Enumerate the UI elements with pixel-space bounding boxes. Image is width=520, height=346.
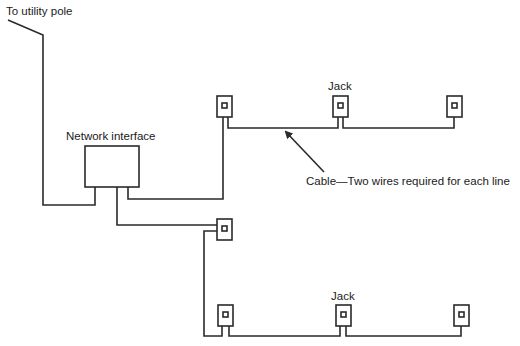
jack-bottom-2 [336,305,351,326]
utility-pole-label: To utility pole [6,6,72,18]
jack-top-2 [333,96,348,117]
cable-label: Cable—Two wires required for each line [306,176,510,188]
network-interface-box [85,146,139,187]
jack-bottom-3 [454,305,469,326]
jack-top-3 [447,96,462,117]
cable-to-middle-jack [117,187,217,225]
wiring-diagram [0,0,520,346]
cable-arrow-icon [286,132,324,172]
top-row-cable-2 [343,117,454,128]
jack-label-bottom: Jack [331,291,355,303]
jack-middle [217,219,232,240]
utility-line [8,20,95,205]
top-row-cable [228,117,338,128]
bottom-row-cable-2 [346,326,461,336]
network-interface-label: Network interface [66,131,155,143]
jack-top-1 [217,96,232,117]
jack-bottom-1 [218,305,233,326]
jack-label-top: Jack [328,81,352,93]
bottom-row-cable [229,326,340,336]
